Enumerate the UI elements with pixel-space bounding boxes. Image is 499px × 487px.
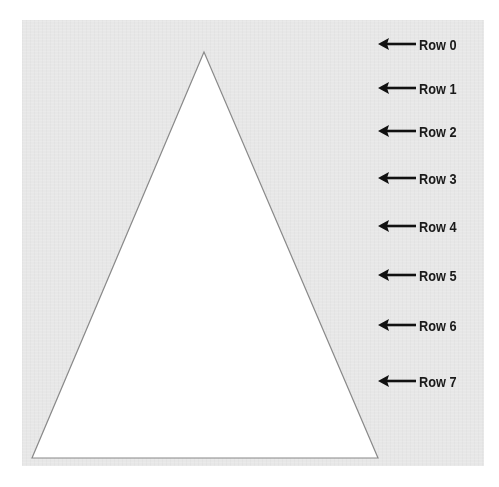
pascal-number-value: 1: [100, 228, 117, 272]
pascal-number: 1: [287, 228, 308, 272]
pascal-number: 1: [212, 80, 233, 124]
pascal-number-value: 1: [235, 128, 252, 172]
pascal-number-value: 3: [224, 178, 241, 222]
row-label-text: Row 3: [419, 170, 457, 187]
pascal-number: 1: [122, 178, 143, 222]
pascal-number: 3: [221, 178, 242, 222]
pascal-number: 10: [157, 278, 200, 322]
pascal-number-value: 21: [281, 380, 315, 424]
pascal-number-value: 1: [290, 228, 307, 272]
pascal-number-value: 6: [97, 328, 114, 372]
pascal-number: 21: [277, 380, 320, 424]
row-label-4: Row 4: [378, 216, 463, 236]
row-label-text: Row 0: [419, 36, 457, 53]
pascal-number-value: 3: [167, 178, 184, 222]
pascal-number: 3: [164, 178, 185, 222]
pascal-number-value: 21: [115, 380, 149, 424]
row-label-6: Row 6: [378, 315, 463, 335]
pascal-number: 1: [146, 128, 167, 172]
pascal-number-value: 5: [277, 278, 294, 322]
row-label-text: Row 5: [419, 267, 457, 284]
pascal-number: 4: [245, 228, 266, 272]
pascal-number: 1: [306, 278, 327, 322]
row-label-text: Row 2: [419, 123, 457, 140]
row-label-2: Row 2: [378, 121, 463, 141]
pascal-number: 15: [248, 328, 291, 372]
arrow-left-icon: [378, 34, 416, 54]
pascal-number: 7: [332, 380, 353, 424]
pascal-number-value: 10: [223, 278, 257, 322]
arrow-left-icon: [378, 168, 416, 188]
pascal-number-value: 15: [140, 328, 174, 372]
pascal-number: 6: [303, 328, 324, 372]
pascal-number-value: 1: [309, 278, 326, 322]
row-label-0: Row 0: [378, 34, 463, 54]
pascal-number: 4: [140, 228, 161, 272]
pascal-number: 1: [174, 80, 195, 124]
arrow-left-icon: [378, 78, 416, 98]
row-label-text: Row 6: [419, 317, 457, 334]
pascal-number: 35: [221, 380, 264, 424]
pascal-number-value: 1: [196, 22, 213, 66]
row-label-text: Row 1: [419, 80, 457, 97]
pascal-number: 20: [192, 328, 235, 372]
pascal-number-value: 1: [363, 380, 380, 424]
pascal-number-value: 7: [72, 380, 89, 424]
pascal-number: 1: [232, 128, 253, 172]
pascal-number: 1: [97, 228, 118, 272]
pascal-number-value: 35: [170, 380, 204, 424]
row-label-text: Row 4: [419, 218, 457, 235]
pascal-number-value: 1: [125, 178, 142, 222]
pascal-number: 1: [29, 380, 50, 424]
pascal-number: 5: [116, 278, 137, 322]
pascal-number-value: 6: [306, 328, 323, 372]
pascal-number-value: 7: [335, 380, 352, 424]
pascal-number: 1: [55, 328, 76, 372]
arrow-left-icon: [378, 371, 416, 391]
pascal-number-value: 1: [177, 80, 194, 124]
pascal-number-value: 4: [143, 228, 160, 272]
pascal-number-value: 20: [196, 328, 230, 372]
arrow-left-icon: [378, 216, 416, 236]
pascal-number: 7: [69, 380, 90, 424]
pascal-number-value: 1: [149, 128, 166, 172]
pascal-number: 5: [274, 278, 295, 322]
pascal-number-value: 10: [161, 278, 195, 322]
pascal-number: 2: [193, 128, 214, 172]
pascal-number-value: 2: [196, 128, 213, 172]
pascal-number-value: 5: [119, 278, 136, 322]
pascal-number-value: 1: [32, 380, 49, 424]
pascal-number: 6: [94, 328, 115, 372]
pascal-number-value: 6: [196, 228, 213, 272]
arrow-left-icon: [378, 265, 416, 285]
pascal-number-value: 15: [252, 328, 286, 372]
pascal-number-value: 1: [79, 278, 96, 322]
arrow-left-icon: [378, 121, 416, 141]
pascal-number: 21: [111, 380, 154, 424]
arrow-left-icon: [378, 315, 416, 335]
pascal-number: 1: [334, 328, 355, 372]
row-label-1: Row 1: [378, 78, 463, 98]
row-label-text: Row 7: [419, 373, 457, 390]
pascal-number: 1: [193, 22, 214, 66]
row-label-7: Row 7: [378, 371, 463, 391]
row-label-5: Row 5: [378, 265, 463, 285]
pascal-number-value: 1: [262, 178, 279, 222]
pascal-number-value: 1: [215, 80, 232, 124]
pascal-number: 1: [259, 178, 280, 222]
pascal-number-value: 1: [337, 328, 354, 372]
pascal-number-value: 1: [58, 328, 75, 372]
pascal-number: 1: [76, 278, 97, 322]
pascal-number: 10: [219, 278, 262, 322]
pascal-number: 35: [166, 380, 209, 424]
pascal-number-value: 35: [225, 380, 259, 424]
pascal-number: 6: [193, 228, 214, 272]
pascal-number-value: 4: [248, 228, 265, 272]
pascal-number: 15: [136, 328, 179, 372]
row-label-3: Row 3: [378, 168, 463, 188]
